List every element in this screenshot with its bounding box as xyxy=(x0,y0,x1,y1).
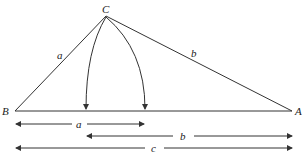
side-ca xyxy=(106,16,292,111)
vertex-label-c: C xyxy=(102,3,110,15)
vertex-label-b: B xyxy=(2,105,9,117)
dimension-label-c: c xyxy=(151,142,156,154)
side-bc xyxy=(15,16,106,111)
dimension-label-b: b xyxy=(180,130,186,142)
dimension-label-a: a xyxy=(76,118,82,130)
arc-a-projection xyxy=(86,17,106,109)
arc-b-projection xyxy=(106,17,145,109)
side-label-b: b xyxy=(191,47,197,59)
side-label-a: a xyxy=(57,49,63,61)
vertex-label-a: A xyxy=(294,105,302,117)
triangle-diagram: C B A a b a b c xyxy=(0,0,307,168)
